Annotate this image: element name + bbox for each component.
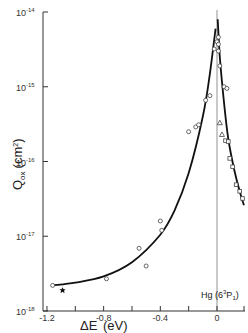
x-tick-label: -0.4 — [153, 313, 169, 323]
y-tick-label: 10-18 — [16, 306, 35, 317]
square-marker — [231, 165, 235, 169]
circle-marker — [51, 283, 55, 287]
fit-curve — [218, 19, 244, 205]
square-marker — [234, 183, 238, 187]
x-axis-unit: (eV) — [103, 318, 128, 333]
circle-marker — [197, 123, 201, 127]
triangle-marker — [219, 132, 224, 137]
circle-marker — [187, 130, 191, 134]
circle-marker — [104, 277, 108, 281]
triangle-marker — [217, 120, 222, 125]
circle-marker — [208, 94, 212, 98]
circle-marker — [216, 42, 220, 46]
y-axis-title: Qox(cm2) — [10, 139, 27, 191]
circle-marker — [225, 86, 229, 90]
circle-marker — [158, 219, 162, 223]
circle-marker — [137, 246, 141, 250]
x-tick-label: 0 — [214, 313, 219, 323]
circle-marker — [212, 47, 216, 51]
circle-marker — [144, 264, 148, 268]
data-points — [51, 35, 245, 293]
square-marker — [228, 157, 232, 161]
chart: 10-1410-1510-1610-1710-18 -1.2-0.8-0.40 … — [0, 0, 248, 333]
x-ticks: -1.2-0.8-0.40 — [39, 306, 244, 323]
fit-curve — [53, 29, 216, 286]
fit-curves — [53, 19, 244, 285]
circle-marker — [216, 49, 220, 53]
circle-marker — [218, 64, 222, 68]
circle-marker — [160, 228, 164, 232]
square-marker — [227, 140, 231, 144]
star-marker — [60, 287, 66, 293]
square-marker — [241, 197, 245, 201]
y-tick-label: 10-17 — [16, 231, 35, 242]
y-tick-label: 10-15 — [16, 82, 35, 93]
hg-annotation: Hg (63P1) — [201, 289, 239, 301]
x-axis-title: ΔE — [80, 318, 98, 333]
y-tick-label: 10-14 — [16, 7, 35, 18]
circle-marker — [216, 35, 220, 39]
x-tick-label: -1.2 — [39, 313, 55, 323]
circle-marker — [204, 98, 208, 102]
square-marker — [238, 189, 242, 193]
